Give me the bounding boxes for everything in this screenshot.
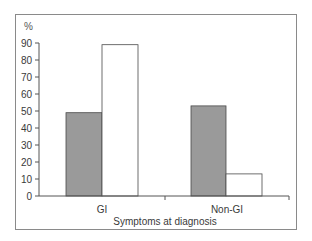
y-axis-unit-label: % — [24, 21, 33, 32]
y-tick-label: 90 — [21, 38, 33, 49]
y-tick-label: 10 — [21, 174, 33, 185]
y-tick-label: 20 — [21, 157, 33, 168]
x-axis-title: Symptoms at diagnosis — [113, 216, 216, 227]
x-category-label-nongi: Non-GI — [211, 204, 243, 215]
y-tick-label: 40 — [21, 123, 33, 134]
y-tick-label: 30 — [21, 140, 33, 151]
x-axis-ticks — [165, 196, 289, 200]
bar-gi-grey — [66, 113, 102, 196]
bar-gi-white — [102, 45, 138, 196]
bar-chart: % 0 10 20 30 40 50 60 70 80 90 — [0, 0, 312, 241]
y-axis-ticks — [35, 43, 39, 196]
x-category-label-gi: GI — [97, 204, 108, 215]
y-tick-label: 50 — [21, 106, 33, 117]
bar-nongi-white — [226, 174, 262, 196]
y-tick-label: 0 — [26, 191, 32, 202]
y-tick-label: 60 — [21, 89, 33, 100]
bar-nongi-grey — [191, 106, 226, 196]
y-tick-label: 80 — [21, 55, 33, 66]
bars — [66, 45, 262, 196]
y-tick-label: 70 — [21, 72, 33, 83]
y-axis-tick-labels: 0 10 20 30 40 50 60 70 80 90 — [21, 38, 33, 202]
